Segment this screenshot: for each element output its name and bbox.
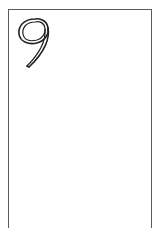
nine-icon (15, 16, 55, 72)
playing-card[interactable]: 9 (8, 9, 152, 228)
rank-nine-glyph: 9 (15, 16, 55, 72)
